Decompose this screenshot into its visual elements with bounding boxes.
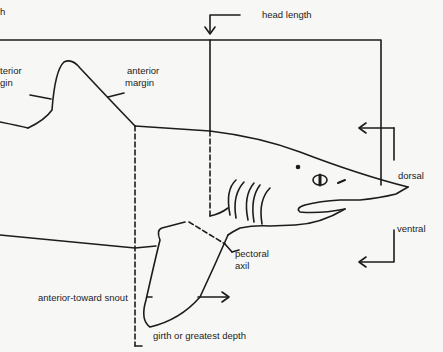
head-length-bracket	[0, 40, 381, 185]
label-anterior-margin-2: margin	[125, 77, 154, 88]
label-fragment-top: h	[0, 6, 5, 17]
label-posterior-margin-1: terior	[0, 65, 22, 76]
label-head-length: head length	[262, 9, 312, 20]
label-anterior-margin-1: anterior	[127, 65, 159, 76]
pectoral-fin	[144, 222, 228, 327]
label-pectoral-axil-1: pectoral	[235, 248, 269, 259]
label-pectoral-axil-2: axil	[235, 260, 249, 271]
body-dorsal-outline	[0, 122, 28, 128]
label-ventral: ventral	[397, 223, 426, 234]
label-dorsal: dorsal	[398, 170, 424, 181]
body-ventral-outline	[228, 209, 345, 235]
label-anterior-toward-snout: anterior-toward snout	[38, 292, 128, 303]
head-length-arrow	[210, 15, 240, 33]
label-posterior-margin-2: gin	[0, 77, 13, 88]
label-girth: girth or greatest depth	[153, 330, 246, 341]
